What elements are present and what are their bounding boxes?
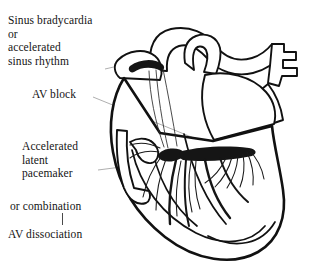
- label-sinus-rhythm: Sinus bradycardia or accelerated sinus r…: [8, 14, 92, 68]
- label-av-block: AV block: [32, 88, 76, 102]
- down-arrow-icon: [62, 213, 63, 225]
- label-accelerated-latent-pacemaker: Accelerated latent pacemaker: [22, 140, 78, 181]
- heart-conduction-figure: Sinus bradycardia or accelerated sinus r…: [0, 0, 321, 276]
- superior-vena-cava: [268, 44, 297, 86]
- label-or-combination: or combination: [10, 200, 81, 214]
- label-av-dissociation: AV dissociation: [8, 228, 82, 242]
